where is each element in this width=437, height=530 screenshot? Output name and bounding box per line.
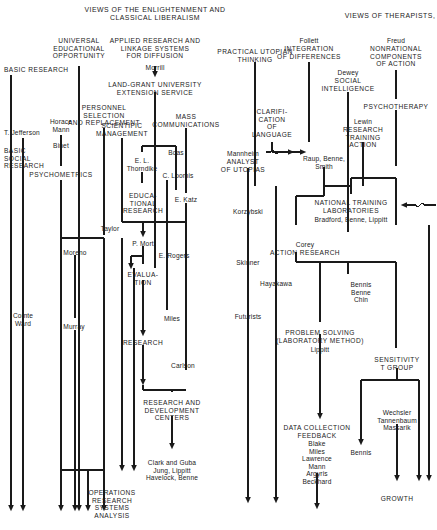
node-taylor: Taylor [101,225,120,233]
node-korzybski: Korzybski [233,208,263,216]
node-ntl-people: Bradford, Benne, Lippitt [315,216,388,224]
node-c-loomis: C. Loomis [162,172,193,180]
node-p-mort: P. Mort [132,240,153,248]
title-left: VIEWS OF THE ENLIGHTENMENT AND CLASSICAL… [84,6,225,23]
node-moreno: Moreno [63,249,86,257]
node-murray: Murray [63,323,84,331]
node-applied-research: APPLIED RESEARCH AND LINKAGE SYSTEMS FOR… [110,37,201,60]
node-mass-communications: MASS COMMUNICATIONS [152,113,219,128]
node-e-rogers: E. Rogers [159,252,190,260]
node-hayakawa: Hayakawa [260,280,292,288]
node-binet: Binet [53,142,69,150]
node-evaluation: EVALUA- TION [128,271,159,286]
node-psychotherapy: PSYCHOTHERAPY [364,103,429,111]
node-dewey: Dewey [338,69,359,77]
node-freud: Freud [387,37,405,45]
node-mannheim: Mannheim [227,150,259,158]
node-el-thorndike: E. L. Thorndike [127,157,158,172]
node-clarification: CLARIFI- CATION OF LANGUAGE [252,108,292,138]
node-e-katz: E. Katz [175,196,197,204]
node-research-training: RESEARCH TRAINING ACTION [343,126,383,149]
node-ntl: NATIONAL TRAINING LABORATORIES [314,199,387,214]
node-lewin: Lewin [354,118,372,126]
node-problem-solving: PROBLEM SOLVING (LABORATORY METHOD) [276,329,364,344]
node-horace-mann: Horace Mann [50,118,72,133]
node-raup-benne-smith: Raup, Benne, Smith [303,155,345,170]
node-sensitivity: SENSITIVITY T GROUP [374,356,419,371]
node-wechsler: Wechsler Tannenbaum Massarik [377,409,417,432]
node-educational-research: EDUCA- TIONAL RESEARCH [123,192,163,215]
node-t-jefferson: T. Jefferson [4,129,40,137]
node-carlson: Carlson [171,362,195,370]
node-integration-diff: INTEGRATION OF DIFFERENCES [277,45,341,60]
node-follett: Follett [299,37,318,45]
node-basic-research: BASIC RESEARCH [4,66,69,74]
node-bennis: Bennis [350,449,371,457]
node-ops-research: OPERATIONS RESEARCH SYSTEMS ANALYSIS [88,489,135,519]
node-growth: GROWTH [381,495,414,503]
node-basic-social-research: BASIC SOCIAL RESEARCH [4,147,44,170]
node-dc-people: Blake Miles Lawrence Mann Argyris Beckha… [302,440,332,486]
node-skinner: Skinner [236,259,259,267]
node-boas: Boas [168,149,184,157]
node-nonrational: NONRATIONAL COMPONENTS OF ACTION [370,45,422,68]
node-corey: Corey [296,241,314,249]
title-right: VIEWS OF THERAPISTS, [345,12,436,20]
node-miles-1: Miles [164,315,180,323]
node-psychometrics: PSYCHOMETRICS [29,171,92,179]
node-analyst-utopias: ANALYST OF UTOPIAS [221,158,265,173]
node-land-grant: LAND-GRANT UNIVERSITY EXTENSION SERVICE [108,81,202,96]
node-universal-ed: UNIVERSAL EDUCATIONAL OPPORTUNITY [53,37,105,60]
node-social-intelligence: SOCIAL INTELLIGENCE [321,77,374,92]
node-rnd-centers: RESEARCH AND DEVELOPMENT CENTERS [143,399,200,422]
node-morrill: Morrill [146,64,165,72]
node-futurists: Futurists [235,313,262,321]
node-clark-guba: Clark and Guba Jung, Lippitt Havelock, B… [146,459,198,482]
diagram-canvas: VIEWS OF THE ENLIGHTENMENT AND CLASSICAL… [0,0,437,530]
node-lippitt: Lippitt [311,346,330,354]
node-action-research: ACTION RESEARCH [270,249,340,257]
node-data-collection: DATA COLLECTION FEEDBACK [284,424,351,439]
node-bennis-benne-chin: Bennis Benne Chin [350,281,371,304]
node-research: RESEARCH [123,339,163,347]
node-comte-ward: Comte Ward [13,312,33,327]
node-scientific-management: SCIENTIFIC MANAGEMENT [96,122,148,137]
